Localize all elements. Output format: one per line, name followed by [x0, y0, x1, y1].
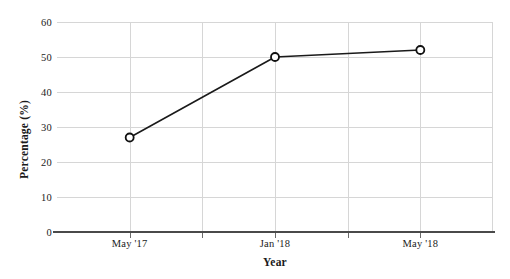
series-line [130, 50, 421, 138]
series-markers [126, 46, 425, 142]
x-axis-title: Year [57, 256, 493, 268]
data-point-marker [416, 46, 424, 54]
data-point-marker [126, 134, 134, 142]
line-chart: Percentage (%) 0102030405060 May '17Jan … [0, 0, 510, 279]
data-point-marker [271, 53, 279, 61]
data-series-layer [0, 0, 510, 279]
